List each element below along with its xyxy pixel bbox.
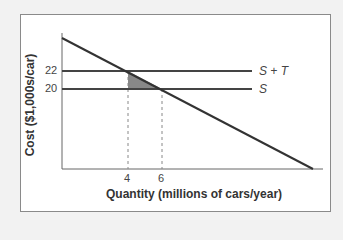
deadweight-loss-area <box>128 71 162 89</box>
s-label: S <box>259 82 267 96</box>
x-tick-4: 4 <box>124 172 130 184</box>
demand-line <box>62 38 313 169</box>
y-axis-label: Cost ($1,000s/car) <box>23 54 37 157</box>
x-axis-label: Quantity (millions of cars/year) <box>106 187 282 201</box>
x-tick-6: 6 <box>158 172 164 184</box>
y-tick-20: 20 <box>45 82 57 94</box>
y-tick-22: 22 <box>45 64 57 76</box>
s-plus-t-label: S + T <box>259 64 288 78</box>
